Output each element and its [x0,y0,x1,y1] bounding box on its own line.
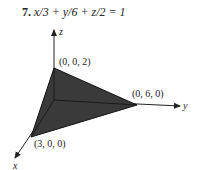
z-axis-label: z [59,26,63,37]
vertex-label-z: (0, 0, 2) [59,56,91,67]
vertex-label-x: (3, 0, 0) [34,138,66,149]
x-axis-label: x [13,160,17,170]
y-axis-label: y [183,100,187,111]
vertex-label-y: (0, 6, 0) [132,88,164,99]
plane-triangle [31,68,137,137]
plane-diagram [0,0,200,170]
